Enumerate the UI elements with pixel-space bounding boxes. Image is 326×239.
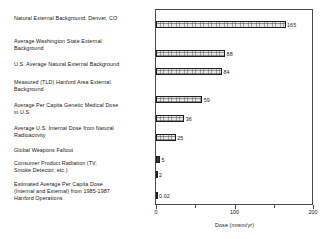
bar-value-label: 165 (287, 22, 296, 29)
bar-value-label: 88 (227, 51, 233, 58)
axis-tick (274, 205, 275, 208)
category-label: Natural External Background, Denver, CO (14, 15, 154, 22)
bar-value-label: 25 (177, 135, 183, 142)
bar-value-label: 0.02 (159, 193, 170, 200)
x-axis-tick-labels: 0100200 (0, 209, 326, 218)
category-label: Estimated Average Per Capita Dose (Inter… (14, 181, 154, 203)
bar-value-label: 84 (223, 69, 229, 76)
axis-tick-label: 0 (155, 209, 158, 216)
bar-value-label: 59 (204, 97, 210, 104)
bar-value-label: 36 (186, 116, 192, 123)
bar (156, 68, 222, 75)
category-label: Average Washington State External Backgr… (14, 38, 154, 52)
bar (156, 115, 184, 122)
category-label: U.S. Average Natural External Background (14, 61, 154, 68)
bar-value-label: 2 (159, 172, 162, 179)
bar (156, 171, 158, 178)
category-label: Consumer Product Radiation (TV, Smoke De… (14, 160, 154, 174)
category-label: Average U.S. Internal Dose from Natural … (14, 125, 154, 139)
bar (156, 134, 176, 141)
x-axis-title: Dose (mrem/yr) (156, 222, 313, 229)
category-label: Measured (TLD) Hanford Area External Bac… (14, 79, 154, 93)
bar (156, 21, 286, 28)
axis-tick-label: 100 (230, 209, 239, 216)
bars-layer: 1658884593625520.02 (156, 10, 313, 204)
category-label-column: Natural External Background, Denver, COA… (0, 0, 152, 205)
horizontal-bar-chart: Natural External Background, Denver, COA… (0, 0, 326, 239)
bar (156, 156, 160, 163)
axis-tick (195, 205, 196, 208)
bar-value-label: 5 (161, 157, 164, 164)
bar (156, 192, 158, 199)
bar (156, 96, 202, 103)
category-label: Average Per Capita Genetic Medical Dose … (14, 102, 154, 116)
axis-tick-label: 200 (309, 209, 318, 216)
category-label: Global Weapons Fallout (14, 147, 154, 154)
bar (156, 50, 225, 57)
